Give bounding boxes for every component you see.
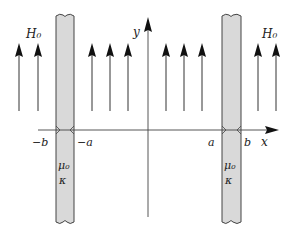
x-axis-label: x xyxy=(261,135,268,149)
field-arrowhead-icon xyxy=(34,43,42,57)
right-slab-mu-label: μ₀ xyxy=(224,159,236,172)
field-label-left: H₀ xyxy=(25,27,41,41)
field-arrowhead-icon xyxy=(272,43,280,57)
tick-label-neg-a: −a xyxy=(77,136,93,149)
left-slab-mu-label: μ₀ xyxy=(58,159,70,172)
field-arrowhead-icon xyxy=(254,43,262,57)
right-slab-kappa-label: κ xyxy=(224,174,233,187)
field-arrowhead-icon xyxy=(180,43,188,57)
right-slab xyxy=(222,14,241,223)
y-axis-label: y xyxy=(132,25,140,39)
tick-label-a: a xyxy=(208,136,215,149)
slab-field-diagram: H₀ H₀ y x −b −a a b μ₀ κ μ₀ κ xyxy=(0,0,293,235)
field-arrowhead-icon xyxy=(198,43,206,57)
field-label-right: H₀ xyxy=(261,27,277,41)
field-arrowhead-icon xyxy=(124,43,132,57)
field-arrowhead-icon xyxy=(15,43,23,57)
left-slab xyxy=(56,14,74,223)
field-arrowhead-icon xyxy=(106,43,114,57)
field-arrowhead-icon xyxy=(162,43,170,57)
tick-label-b: b xyxy=(244,136,251,149)
x-axis-arrowhead-icon xyxy=(265,126,279,134)
field-arrowhead-icon xyxy=(88,43,96,57)
tick-label-neg-b: −b xyxy=(32,136,48,149)
y-axis-arrowhead-icon xyxy=(144,17,152,32)
left-slab-kappa-label: κ xyxy=(58,174,67,187)
